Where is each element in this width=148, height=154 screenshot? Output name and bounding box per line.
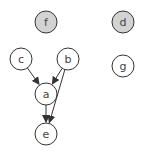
node-d: d <box>112 11 134 33</box>
edge-c-to-a <box>27 68 39 84</box>
node-b: b <box>57 48 79 70</box>
node-a: a <box>35 83 57 105</box>
node-label: d <box>120 16 127 29</box>
node-c: c <box>10 48 32 70</box>
node-label: c <box>18 53 24 66</box>
node-label: g <box>120 60 127 73</box>
edge-b-to-a <box>52 68 62 84</box>
directed-graph: fdcbgae <box>0 0 148 154</box>
node-label: e <box>43 128 50 141</box>
nodes-layer: fdcbgae <box>10 11 134 145</box>
node-label: b <box>65 53 72 66</box>
node-label: a <box>43 88 50 101</box>
node-g: g <box>112 55 134 77</box>
node-f: f <box>35 11 57 33</box>
node-e: e <box>35 123 57 145</box>
